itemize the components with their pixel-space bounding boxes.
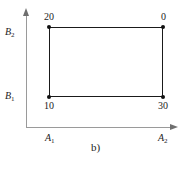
x-axis-tick-label-a2: A2 xyxy=(158,133,168,145)
x-axis-tick-a1-subscript: 1 xyxy=(51,137,55,145)
value-label-a2-b1: 30 xyxy=(158,101,168,111)
y-axis-line xyxy=(26,14,27,127)
x-axis-tick-label-a1: A1 xyxy=(45,133,55,145)
figure-caption: b) xyxy=(91,142,100,153)
y-axis-arrow-icon xyxy=(23,8,29,16)
data-point-a1-b2 xyxy=(47,25,51,29)
data-point-a2-b2 xyxy=(161,25,165,29)
x-axis-line xyxy=(26,127,172,128)
x-axis-arrow-icon xyxy=(170,124,178,130)
x-axis-tick-a2-subscript: 2 xyxy=(164,137,168,145)
data-point-a2-b1 xyxy=(161,95,165,99)
y-axis-tick-label-b1: B1 xyxy=(5,91,15,103)
data-point-a1-b1 xyxy=(47,95,51,99)
y-axis-tick-b2-subscript: 2 xyxy=(11,31,15,39)
y-axis-tick-b1-subscript: 1 xyxy=(11,95,15,103)
value-label-a2-b2: 0 xyxy=(161,12,166,22)
figure-panel-b: 20 0 10 30 B2 B1 A1 A2 b) xyxy=(0,0,190,173)
value-label-a1-b2: 20 xyxy=(44,12,54,22)
interaction-rectangle xyxy=(49,27,163,97)
y-axis-tick-label-b2: B2 xyxy=(5,27,15,39)
value-label-a1-b1: 10 xyxy=(44,101,54,111)
